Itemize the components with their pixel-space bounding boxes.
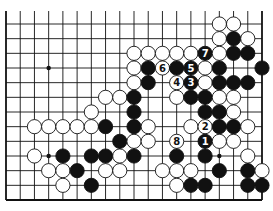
white-stone-n9: 4 [170,76,184,90]
white-stone-n5: 8 [170,134,184,148]
white-stone-p6: 2 [198,120,212,134]
white-stone-s6 [241,120,255,134]
black-stone-g2 [84,178,98,192]
white-stone-l5 [141,134,155,148]
black-stone-l10 [141,61,155,75]
black-stone-n4 [170,149,184,163]
move-number-label: 6 [159,63,166,74]
white-stone-j3 [113,164,127,178]
white-stone-e2 [56,178,70,192]
black-stone-q3 [212,164,226,178]
black-stone-s9 [241,76,255,90]
black-stone-t10 [255,61,269,75]
black-stone-q10 [212,61,226,75]
black-stone-s3 [241,164,255,178]
white-stone-q11 [212,46,226,60]
black-stone-l9 [141,76,155,90]
white-stone-m10: 6 [155,61,169,75]
white-stone-r7 [226,105,240,119]
white-stone-n8 [170,90,184,104]
white-stone-c6 [27,120,41,134]
move-number-label: 1 [202,136,209,147]
white-stone-k5 [127,134,141,148]
move-number-label: 8 [173,136,180,147]
move-number-label: 7 [202,48,209,59]
black-stone-h4 [98,149,112,163]
black-stone-k4 [127,149,141,163]
black-stone-n10 [170,61,184,75]
black-stone-r6 [226,120,240,134]
white-stone-m3 [155,164,169,178]
white-stone-n3 [170,164,184,178]
white-stone-l11 [141,46,155,60]
move-number-label: 4 [173,77,180,88]
white-stone-t3 [255,164,269,178]
white-stone-k10 [127,61,141,75]
black-stone-k6 [127,120,141,134]
star-point-icon [46,154,50,158]
white-stone-s4 [241,149,255,163]
white-stone-k9 [127,76,141,90]
star-point-icon [217,154,221,158]
black-stone-p4 [198,149,212,163]
black-stone-e4 [56,149,70,163]
black-stone-r9 [226,76,240,90]
black-stone-o8 [184,90,198,104]
black-stone-q6 [212,120,226,134]
white-stone-f6 [70,120,84,134]
move-number-label: 5 [187,63,194,74]
white-stone-r13 [226,17,240,31]
white-stone-j8 [113,90,127,104]
white-stone-j4 [113,149,127,163]
move-number-label: 2 [202,121,209,132]
black-stone-o10: 5 [184,61,198,75]
black-stone-r11 [226,46,240,60]
black-stone-k7 [127,105,141,119]
black-stone-r12 [226,32,240,46]
black-stone-p5: 1 [198,134,212,148]
white-stone-q5 [212,134,226,148]
black-stone-f3 [70,164,84,178]
black-stone-j5 [113,134,127,148]
white-stone-q13 [212,17,226,31]
white-stone-o6 [184,120,198,134]
white-stone-r8 [226,90,240,104]
black-stone-p8 [198,90,212,104]
white-stone-n11 [170,46,184,60]
white-stone-h3 [98,164,112,178]
black-stone-g4 [84,149,98,163]
white-stone-s12 [241,32,255,46]
white-stone-n2 [170,178,184,192]
star-point-icon [46,66,50,70]
white-stone-k11 [127,46,141,60]
white-stone-p9 [198,76,212,90]
white-stone-o3 [184,164,198,178]
black-stone-p2 [198,178,212,192]
black-stone-s11 [241,46,255,60]
white-stone-h8 [98,90,112,104]
black-stone-k8 [127,90,141,104]
white-stone-g6 [84,120,98,134]
black-stone-t2 [255,178,269,192]
black-stone-o2 [184,178,198,192]
go-board-diagram: 76543281 [0,0,273,211]
black-stone-q9 [212,76,226,90]
black-stone-o9: 3 [184,76,198,90]
move-number-label: 3 [187,77,194,88]
black-stone-q7 [212,105,226,119]
black-stone-s2 [241,178,255,192]
white-stone-c4 [27,149,41,163]
white-stone-m11 [155,46,169,60]
black-stone-p11: 7 [198,46,212,60]
white-stone-l6 [141,120,155,134]
white-stone-o11 [184,46,198,60]
white-stone-d6 [42,120,56,134]
white-stone-e3 [56,164,70,178]
white-stone-e6 [56,120,70,134]
white-stone-g7 [84,105,98,119]
black-stone-p7 [198,105,212,119]
white-stone-q12 [212,32,226,46]
white-stone-d3 [42,164,56,178]
white-stone-r5 [226,134,240,148]
white-stone-q8 [212,90,226,104]
